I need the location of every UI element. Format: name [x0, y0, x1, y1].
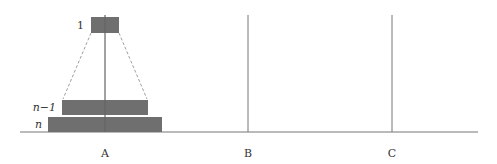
peg-label-a: A: [100, 147, 110, 160]
peg-label-c: C: [388, 147, 396, 160]
disk-label-n-minus-1: n−1: [33, 101, 56, 114]
disk-label-1: 1: [77, 19, 84, 32]
disk-label-n: n: [35, 118, 42, 131]
dashed-guide-left: [63, 33, 91, 99]
peg-label-b: B: [244, 147, 252, 160]
dashed-guide-right: [119, 33, 147, 99]
hanoi-diagram: 1 n−1 n A B C: [0, 0, 497, 164]
